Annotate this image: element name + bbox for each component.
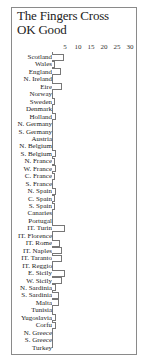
bar: [52, 68, 61, 75]
bar: [52, 284, 56, 291]
bar: [52, 240, 60, 247]
bar: [52, 195, 55, 202]
bar: [52, 113, 56, 120]
bar: [52, 225, 65, 232]
bar: [52, 314, 56, 321]
bar: [52, 150, 56, 157]
bar: [52, 165, 56, 172]
bar: [52, 54, 64, 61]
chart-title: The Fingers Cross OK Good: [17, 9, 109, 36]
category-label: Turkey: [32, 344, 52, 352]
x-tick-label: 5: [63, 43, 67, 51]
bar: [52, 188, 56, 195]
bar: [52, 270, 65, 277]
bar: [52, 247, 62, 254]
bar: [52, 203, 55, 210]
bar: [52, 158, 55, 165]
bar: [52, 83, 62, 90]
bar: [52, 277, 62, 284]
bar: [52, 322, 56, 329]
bar: [52, 292, 59, 299]
x-tick-label: 30: [127, 43, 134, 51]
title-line-2: OK Good: [17, 23, 109, 37]
x-tick-label: 10: [75, 43, 82, 51]
bar: [52, 61, 55, 68]
x-axis-ticks: 51015202530: [0, 43, 148, 53]
bar: [52, 98, 55, 105]
bar: [52, 173, 55, 180]
x-tick-label: 20: [101, 43, 108, 51]
bar: [52, 299, 59, 306]
bar-row: Turkey: [0, 344, 148, 352]
title-line-1: The Fingers Cross: [17, 9, 109, 23]
bar: [52, 255, 62, 262]
x-tick-label: 25: [114, 43, 121, 51]
x-tick-label: 15: [88, 43, 95, 51]
